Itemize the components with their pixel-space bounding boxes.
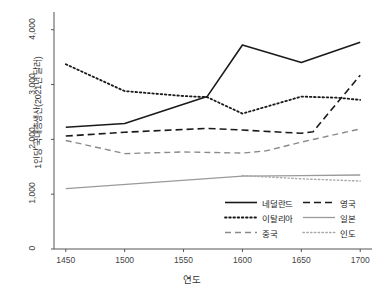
solid-gray-line-key	[302, 213, 336, 222]
chart-legend: 네덜란드영국이탈리아일본중국인도	[224, 195, 376, 240]
legend-label: 네덜란드	[262, 197, 293, 209]
plot-area	[0, 0, 383, 292]
legend-label: 일본	[340, 212, 356, 224]
series-paths	[66, 42, 360, 188]
legend-item[interactable]: 중국	[224, 225, 298, 240]
solid-black-line-key	[224, 198, 258, 207]
series-line	[66, 42, 360, 127]
legend-label: 이탈리아	[262, 212, 293, 224]
legend-label: 인도	[340, 227, 356, 239]
legend-item[interactable]: 이탈리아	[224, 210, 298, 225]
legend-item[interactable]: 인도	[302, 225, 376, 240]
chart-container: 1인당 국내총생산(2021년 달러) 연도 01,0002,0003,0004…	[0, 0, 383, 292]
legend-item[interactable]: 일본	[302, 210, 376, 225]
dashed-black-line-key	[302, 198, 336, 207]
legend-item[interactable]: 영국	[302, 195, 376, 210]
legend-item[interactable]: 네덜란드	[224, 195, 298, 210]
dotted-gray-line-key	[302, 228, 336, 237]
dotted-black-line-key	[224, 213, 258, 222]
series-line	[66, 175, 360, 189]
legend-label: 중국	[262, 227, 278, 239]
dashed-gray-line-key	[224, 228, 258, 237]
legend-label: 영국	[340, 197, 356, 209]
